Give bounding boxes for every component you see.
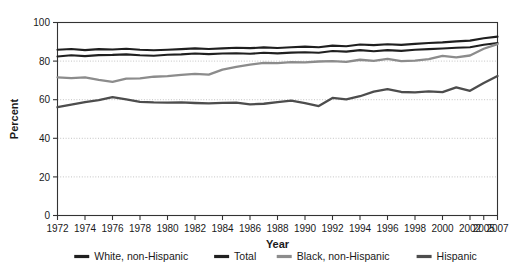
x-tick-label: 1992 <box>321 223 344 234</box>
x-tick-label: 1996 <box>376 223 399 234</box>
y-tick-label: 20 <box>39 172 51 183</box>
chart-container: 020406080100 197219741976197819801982198… <box>0 0 515 277</box>
legend-label-3[interactable]: Hispanic <box>437 250 477 262</box>
y-tick-label: 80 <box>39 56 51 67</box>
x-tick-label: 1994 <box>349 223 372 234</box>
legend-label-2[interactable]: Black, non-Hispanic <box>297 250 390 262</box>
x-tick-label: 1986 <box>239 223 262 234</box>
legend-label-0[interactable]: White, non-Hispanic <box>94 250 188 262</box>
y-tick-label: 60 <box>39 94 51 105</box>
x-tick-label: 1982 <box>184 223 207 234</box>
y-tick-label: 40 <box>39 133 51 144</box>
x-tick-label: 1976 <box>101 223 124 234</box>
x-tick-label: 1972 <box>46 223 69 234</box>
x-tick-label: 1998 <box>404 223 427 234</box>
x-tick-label: 1988 <box>266 223 289 234</box>
y-axis-title: Percent <box>8 98 20 139</box>
x-tick-label: 2000 <box>431 223 454 234</box>
line-chart: 020406080100 197219741976197819801982198… <box>0 0 515 277</box>
x-tick-label: 2007 <box>486 223 509 234</box>
y-axis-title-text: Percent <box>8 98 20 139</box>
x-tick-label: 1974 <box>74 223 97 234</box>
y-tick-label: 100 <box>33 17 50 28</box>
x-axis-title: Year <box>266 238 290 250</box>
x-tick-label: 1984 <box>211 223 234 234</box>
x-tick-label: 1980 <box>156 223 179 234</box>
legend-label-1[interactable]: Total <box>234 250 256 262</box>
x-axis-title-text: Year <box>266 238 290 250</box>
x-tick-label: 1990 <box>294 223 317 234</box>
y-tick-label: 0 <box>44 210 50 221</box>
x-tick-label: 1978 <box>129 223 152 234</box>
